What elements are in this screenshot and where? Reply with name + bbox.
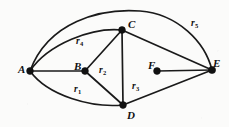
vertex-label-B: B <box>74 61 81 72</box>
edge-A-E-top-arc <box>30 11 212 71</box>
region-label-r4: r4 <box>76 37 83 47</box>
edge-B-C <box>85 30 122 71</box>
vertex-C <box>119 27 126 34</box>
vertex-label-A: A <box>18 64 25 75</box>
region-label-r5-sub: 5 <box>195 22 198 29</box>
edge-C-E <box>122 30 212 70</box>
vertex-label-C: C <box>128 19 135 30</box>
region-label-r4-sub: 4 <box>80 40 83 47</box>
region-label-r3: r3 <box>132 82 139 92</box>
edge-F-E <box>157 70 212 71</box>
edge-C-D <box>122 30 123 105</box>
edge-B-D <box>85 71 123 105</box>
planar-graph-figure: A B C D E F r1 r2 r3 r4 r5 <box>0 0 229 127</box>
region-label-r5: r5 <box>191 19 198 29</box>
region-label-r2-sub: 2 <box>103 69 106 76</box>
vertex-A <box>27 68 34 75</box>
region-label-r1-sub: 1 <box>78 88 81 95</box>
region-label-r3-sub: 3 <box>136 85 139 92</box>
vertex-label-E: E <box>213 58 220 69</box>
vertex-label-D: D <box>127 110 135 121</box>
region-label-r1: r1 <box>74 85 81 95</box>
vertex-label-F: F <box>148 60 155 71</box>
vertex-D <box>120 102 127 109</box>
region-label-r2: r2 <box>99 66 106 76</box>
vertex-B <box>82 68 89 75</box>
